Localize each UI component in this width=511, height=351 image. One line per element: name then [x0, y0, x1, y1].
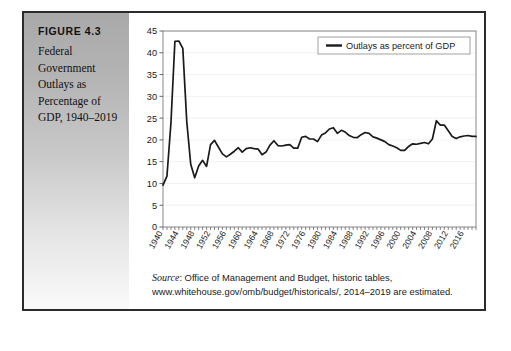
source-note: Source: Office of Management and Budget,… [152, 271, 470, 298]
source-text: : Office of Management and Budget, histo… [152, 272, 453, 297]
x-axis-tick-label: 1996 [368, 229, 386, 251]
x-axis-tick-label: 1992 [353, 229, 371, 251]
x-axis-tick-label: 1984 [321, 229, 339, 251]
x-axis-tick-label: 1964 [242, 229, 260, 251]
y-axis-tick-label: 40 [147, 48, 157, 58]
x-axis-tick-label: 1976 [289, 229, 307, 251]
y-axis-tick-label: 20 [147, 135, 157, 145]
plot-frame [163, 31, 476, 227]
x-axis-tick-label: 2000 [384, 229, 402, 251]
x-axis-tick-label: 1960 [226, 229, 244, 251]
data-line-outlays [163, 41, 476, 185]
legend-label: Outlays as percent of GDP [346, 41, 455, 51]
x-axis-tick-label: 1972 [273, 229, 291, 251]
x-axis-tick-label: 2016 [448, 229, 466, 251]
y-axis-tick-label: 45 [147, 26, 157, 36]
x-axis-tick-label: 2008 [416, 229, 434, 251]
line-chart: 0510152025303540451940194419481952195619… [129, 13, 484, 309]
x-axis-tick-label: 2004 [400, 229, 418, 251]
x-axis-tick-label: 1940 [147, 229, 165, 251]
y-axis-tick-label: 15 [147, 157, 157, 167]
x-axis-tick-label: 2012 [432, 229, 450, 251]
y-axis-tick-label: 30 [147, 92, 157, 102]
y-axis-tick-label: 35 [147, 70, 157, 80]
x-axis-tick-label: 1944 [162, 229, 180, 251]
y-axis-tick-label: 10 [147, 179, 157, 189]
x-axis-tick-label: 1952 [194, 229, 212, 251]
source-label: Source [152, 272, 179, 283]
y-axis-tick-label: 5 [152, 201, 157, 211]
figure-title-text: Federal Government Outlays as Percentage… [38, 43, 119, 126]
figure-container: FIGURE 4.3 Federal Government Outlays as… [22, 11, 486, 311]
chart-area: 0510152025303540451940194419481952195619… [129, 13, 484, 309]
x-axis-tick-label: 1980 [305, 229, 323, 251]
x-axis-tick-label: 1988 [337, 229, 355, 251]
y-axis-tick-label: 25 [147, 114, 157, 124]
x-axis-tick-label: 1956 [210, 229, 228, 251]
x-axis-tick-label: 1948 [178, 229, 196, 251]
figure-number-label: FIGURE 4.3 [38, 25, 119, 37]
x-axis-tick-label: 1968 [257, 229, 275, 251]
figure-caption-panel: FIGURE 4.3 Federal Government Outlays as… [24, 13, 129, 309]
